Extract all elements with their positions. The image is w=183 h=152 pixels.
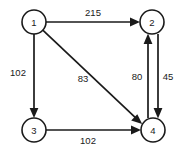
graph-figure: 215 102 83 102 80 45 bbox=[0, 0, 183, 152]
node-1[interactable]: 1 bbox=[22, 10, 46, 34]
edge-1-to-2-weight: 215 bbox=[85, 7, 101, 18]
edge-1-to-2-arrowhead bbox=[130, 18, 140, 27]
edge-1-to-3-arrowhead bbox=[30, 108, 39, 118]
edge-3-to-4-weight: 102 bbox=[80, 135, 96, 146]
node-3[interactable]: 3 bbox=[22, 118, 46, 142]
node-4-label: 4 bbox=[150, 125, 155, 136]
edge-1-to-4: 83 bbox=[43, 30, 142, 124]
edge-1-to-3: 102 bbox=[10, 34, 38, 118]
edge-4-to-2-weight: 80 bbox=[132, 71, 143, 82]
edge-1-to-4-line bbox=[43, 30, 137, 118]
edge-4-to-2: 80 bbox=[132, 34, 153, 119]
graph-canvas: 215 102 83 102 80 45 bbox=[0, 0, 183, 152]
edge-1-to-3-weight: 102 bbox=[10, 67, 26, 78]
edge-2-to-4: 45 bbox=[154, 34, 174, 119]
node-1-label: 1 bbox=[31, 17, 36, 28]
node-3-label: 3 bbox=[31, 125, 36, 136]
edge-4-to-2-arrowhead bbox=[144, 34, 153, 45]
edge-2-to-4-arrowhead bbox=[154, 108, 163, 119]
node-4[interactable]: 4 bbox=[141, 118, 165, 142]
edge-3-to-4: 102 bbox=[46, 126, 141, 146]
node-2-label: 2 bbox=[149, 17, 154, 28]
edge-1-to-4-weight: 83 bbox=[78, 73, 89, 84]
edge-1-to-2: 215 bbox=[46, 7, 140, 27]
node-2[interactable]: 2 bbox=[140, 10, 164, 34]
edge-3-to-4-arrowhead bbox=[131, 126, 141, 135]
edge-2-to-4-weight: 45 bbox=[163, 71, 174, 82]
